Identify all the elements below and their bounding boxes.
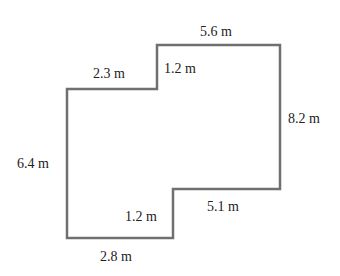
label-lower-step-side: 1.2 m <box>125 210 157 224</box>
label-left-side: 6.4 m <box>17 157 49 171</box>
label-lower-right-side: 5.1 m <box>207 200 239 214</box>
label-bottom-side: 2.8 m <box>100 250 132 264</box>
label-top-side: 5.6 m <box>200 25 232 39</box>
label-upper-left-top-side: 2.3 m <box>93 67 125 81</box>
label-upper-step-side: 1.2 m <box>164 62 196 76</box>
floor-plan-shape <box>0 0 340 276</box>
diagram-canvas: 5.6 m 2.3 m 1.2 m 8.2 m 6.4 m 5.1 m 1.2 … <box>0 0 340 276</box>
label-right-side: 8.2 m <box>288 112 320 126</box>
